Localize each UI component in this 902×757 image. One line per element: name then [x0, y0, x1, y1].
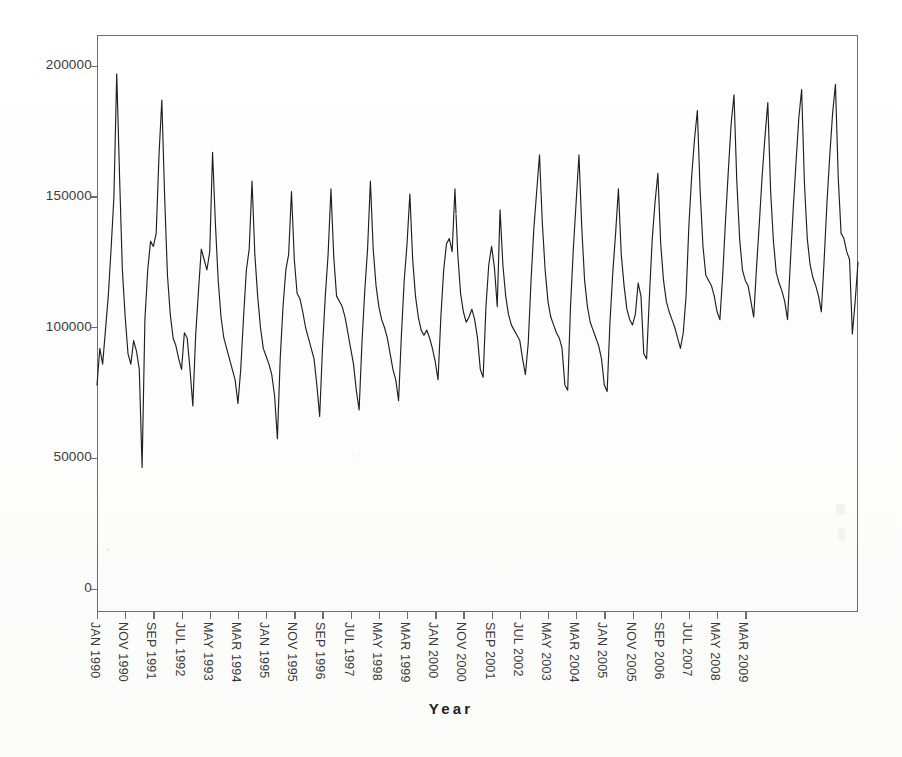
x-tick-label: JUL 2007	[680, 622, 694, 677]
scan-artifact	[836, 504, 845, 515]
y-tick-mark	[90, 589, 97, 590]
x-tick-label: MAR 2009	[736, 622, 750, 683]
x-tick-mark	[238, 612, 239, 619]
x-tick-label: JAN 1990	[88, 622, 102, 679]
x-tick-mark	[210, 612, 211, 619]
x-tick-label: MAR 1999	[398, 622, 412, 683]
y-tick-mark	[90, 66, 97, 67]
chart-figure: 050000100000150000200000 JAN 1990NOV 199…	[0, 0, 902, 757]
x-tick-label: MAY 2003	[539, 622, 553, 681]
y-tick-mark	[90, 327, 97, 328]
x-axis-title: Year	[0, 700, 902, 717]
scan-artifact	[838, 528, 845, 541]
x-tick-label: NOV 1990	[116, 622, 130, 682]
x-tick-mark	[379, 612, 380, 619]
x-tick-label: MAY 1993	[201, 622, 215, 681]
x-tick-mark	[407, 612, 408, 619]
x-tick-mark	[435, 612, 436, 619]
y-tick-label: 150000	[4, 188, 92, 203]
x-tick-mark	[661, 612, 662, 619]
x-tick-mark	[97, 612, 98, 619]
y-tick-mark	[90, 196, 97, 197]
x-tick-mark	[125, 612, 126, 619]
x-tick-label: MAY 2008	[708, 622, 722, 681]
y-axis: 050000100000150000200000	[0, 0, 92, 757]
y-tick-label: 200000	[4, 57, 92, 72]
y-tick-label: 0	[4, 580, 92, 595]
y-tick-label: 100000	[4, 319, 92, 334]
x-tick-mark	[633, 612, 634, 619]
x-tick-label: JAN 1995	[257, 622, 271, 679]
x-tick-label: MAR 2004	[567, 622, 581, 683]
y-tick-mark	[90, 458, 97, 459]
x-tick-label: SEP 1996	[313, 622, 327, 680]
x-tick-label: MAR 1994	[229, 622, 243, 683]
x-tick-label: JUL 1997	[342, 622, 356, 677]
scan-artifact	[107, 548, 110, 551]
x-tick-mark	[182, 612, 183, 619]
x-tick-label: SEP 2006	[652, 622, 666, 680]
y-tick-label: 50000	[4, 449, 92, 464]
x-tick-mark	[294, 612, 295, 619]
scan-artifact	[455, 213, 457, 215]
x-tick-label: NOV 2000	[454, 622, 468, 682]
x-tick-mark	[153, 612, 154, 619]
x-tick-label: MAY 1998	[370, 622, 384, 681]
x-tick-label: NOV 1995	[285, 622, 299, 682]
x-tick-mark	[492, 612, 493, 619]
x-tick-mark	[520, 612, 521, 619]
x-tick-label: JUL 2002	[511, 622, 525, 677]
x-tick-mark	[745, 612, 746, 619]
scan-artifact	[358, 455, 360, 457]
x-tick-mark	[604, 612, 605, 619]
plot-area	[97, 35, 858, 612]
x-tick-mark	[463, 612, 464, 619]
x-tick-label: SEP 1991	[144, 622, 158, 680]
x-tick-mark	[717, 612, 718, 619]
x-tick-mark	[322, 612, 323, 619]
series-polyline	[97, 74, 858, 468]
x-tick-mark	[351, 612, 352, 619]
x-tick-label: SEP 2001	[483, 622, 497, 680]
x-tick-label: JAN 2005	[595, 622, 609, 679]
x-tick-label: NOV 2005	[624, 622, 638, 682]
x-tick-mark	[689, 612, 690, 619]
x-tick-mark	[266, 612, 267, 619]
x-tick-label: JAN 2000	[426, 622, 440, 679]
x-tick-label: JUL 1992	[173, 622, 187, 677]
x-tick-mark	[548, 612, 549, 619]
x-tick-mark	[576, 612, 577, 619]
series-line-chart	[97, 35, 858, 612]
